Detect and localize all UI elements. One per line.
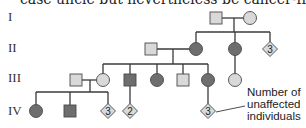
male-square-symbol: [124, 74, 136, 86]
individual-ii-2: [190, 43, 203, 56]
individual-iii-6: [202, 74, 215, 87]
male-square-symbol: [64, 105, 76, 117]
individual-iv-3: 3: [101, 104, 116, 119]
pedigree-chart: I II III IV 3323 Number of unaffecte: [0, 0, 306, 128]
individual-iv-5: 3: [201, 104, 216, 119]
pedigree-symbols: 3323: [30, 12, 278, 119]
female-circle-symbol: [244, 12, 257, 25]
female-circle-symbol: [229, 74, 242, 87]
individual-count-label: 3: [267, 44, 273, 55]
individual-ii-4: 3: [263, 42, 278, 57]
individual-ii-1: [145, 43, 157, 55]
individual-count-label: 3: [205, 106, 211, 117]
individual-i-2: [244, 12, 257, 25]
individual-iv-1: [30, 105, 43, 118]
female-circle-symbol: [30, 105, 43, 118]
generation-label-ii: II: [8, 40, 17, 55]
male-square-symbol: [177, 74, 189, 86]
male-square-symbol: [70, 74, 82, 86]
individual-i-1: [210, 12, 222, 24]
individual-iii-3: [124, 74, 136, 86]
individual-iv-4: 2: [123, 104, 138, 119]
female-circle-symbol: [97, 74, 110, 87]
generation-label-iii: III: [8, 70, 21, 85]
individual-iii-1: [70, 74, 82, 86]
individual-count-label: 3: [105, 106, 111, 117]
female-circle-symbol: [190, 43, 203, 56]
individual-iii-2: [97, 74, 110, 87]
generation-label-iv: IV: [8, 103, 22, 118]
individual-ii-3: [229, 43, 242, 56]
individual-count-label: 2: [127, 106, 133, 117]
female-circle-symbol: [229, 43, 242, 56]
female-circle-symbol: [202, 74, 215, 87]
individual-iii-4: [151, 74, 164, 87]
generation-label-i: I: [8, 9, 12, 24]
individual-iii-7: [229, 74, 242, 87]
legend-line-2: unaffected: [247, 98, 301, 110]
legend-leader-line: [216, 106, 245, 112]
male-square-symbol: [145, 43, 157, 55]
individual-iii-5: [177, 74, 189, 86]
legend-line-1: Number of: [247, 86, 301, 98]
legend-line-3: individuals: [247, 110, 301, 122]
female-circle-symbol: [151, 74, 164, 87]
pedigree-lines: [36, 18, 270, 112]
individual-iv-2: [64, 105, 76, 117]
male-square-symbol: [210, 12, 222, 24]
